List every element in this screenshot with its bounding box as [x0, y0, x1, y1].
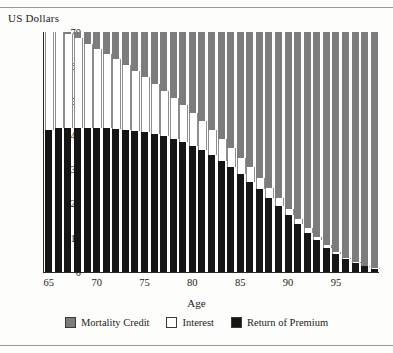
- bar-segment-rop-age-70: [93, 128, 100, 272]
- bar-segment-rop-age-75: [141, 132, 148, 272]
- bar-series-container: [44, 32, 379, 272]
- bar-segment-mor-age-91: [294, 32, 301, 219]
- bar-segment-mor-age-93: [313, 32, 320, 237]
- bar-segment-mor-age-95: [332, 32, 339, 252]
- bar-segment-int-age-70: [93, 49, 102, 128]
- x-tick-65: 65: [44, 277, 55, 288]
- bar-segment-rop-age-78: [170, 139, 177, 272]
- bar-segment-rop-age-89: [275, 206, 282, 272]
- bar-segment-int-age-74: [131, 71, 140, 131]
- legend-item-return_of_premium[interactable]: Return of Premium: [231, 317, 328, 328]
- bar-age-76: [151, 32, 158, 272]
- legend-item-interest[interactable]: Interest: [166, 317, 214, 328]
- x-axis-title: Age: [0, 297, 393, 309]
- bar-age-73: [122, 32, 129, 272]
- bar-segment-rop-age-74: [131, 131, 138, 272]
- x-tick-70: 70: [91, 277, 102, 288]
- bar-segment-mor-age-76: [151, 32, 158, 84]
- bar-segment-rop-age-99: [371, 269, 378, 272]
- legend-swatch-interest: [166, 317, 177, 328]
- bar-age-88: [265, 32, 272, 272]
- bar-segment-rop-age-76: [151, 134, 158, 272]
- bar-segment-mor-age-78: [170, 32, 177, 98]
- bar-segment-int-age-72: [112, 59, 121, 128]
- bar-segment-rop-age-95: [332, 254, 339, 272]
- bar-segment-int-age-77: [160, 91, 169, 137]
- bar-age-78: [170, 32, 177, 272]
- bar-segment-int-age-87: [256, 178, 265, 190]
- bar-age-65: [45, 32, 52, 272]
- x-axis-tick-labels: 65707580859095: [44, 273, 379, 293]
- bar-age-70: [93, 32, 100, 272]
- bar-segment-mor-age-70: [93, 32, 100, 49]
- bar-age-95: [332, 32, 339, 272]
- y-axis-title: US Dollars: [8, 12, 59, 24]
- bar-segment-mor-age-86: [246, 32, 253, 167]
- bar-age-75: [141, 32, 148, 272]
- bar-segment-mor-age-71: [103, 32, 110, 54]
- x-tick-90: 90: [283, 277, 294, 288]
- bar-age-81: [198, 32, 205, 272]
- bar-age-83: [218, 32, 225, 272]
- bar-segment-rop-age-97: [352, 263, 359, 272]
- bar-segment-rop-age-68: [74, 128, 81, 272]
- bar-segment-mor-age-75: [141, 32, 148, 77]
- x-tick-80: 80: [187, 277, 198, 288]
- legend-label-interest: Interest: [182, 317, 214, 328]
- bar-segment-mor-age-77: [160, 32, 167, 91]
- bar-age-67: [64, 32, 71, 272]
- bar-segment-mor-age-87: [256, 32, 263, 178]
- bar-segment-mor-age-97: [352, 32, 359, 262]
- bar-age-71: [103, 32, 110, 272]
- bar-segment-int-age-85: [237, 158, 246, 174]
- x-tick-85: 85: [235, 277, 246, 288]
- bar-segment-rop-age-98: [361, 266, 368, 272]
- bar-segment-mor-age-80: [189, 32, 196, 113]
- bar-age-66: [55, 32, 62, 272]
- bar-segment-mor-age-96: [342, 32, 349, 258]
- bar-segment-mor-age-90: [285, 32, 292, 209]
- bar-age-91: [294, 32, 301, 272]
- bar-segment-mor-age-99: [371, 32, 378, 268]
- bar-segment-rop-age-79: [179, 142, 186, 272]
- bar-segment-rop-age-88: [265, 198, 272, 272]
- bar-age-87: [256, 32, 263, 272]
- bar-age-74: [131, 32, 138, 272]
- bar-segment-int-age-67: [64, 34, 73, 128]
- bar-segment-rop-age-83: [218, 161, 225, 272]
- bar-segment-mor-age-79: [179, 32, 186, 105]
- legend-item-mortality_credit[interactable]: Mortality Credit: [65, 317, 150, 328]
- bar-age-99: [371, 32, 378, 272]
- bar-segment-rop-age-67: [64, 128, 71, 272]
- bar-segment-int-age-88: [265, 188, 274, 198]
- bar-segment-rop-age-80: [189, 146, 196, 272]
- bar-segment-rop-age-73: [122, 130, 129, 272]
- bar-segment-int-age-80: [189, 113, 198, 146]
- bar-segment-rop-age-72: [112, 129, 119, 272]
- bar-segment-rop-age-71: [103, 128, 110, 272]
- bar-age-89: [275, 32, 282, 272]
- bar-segment-mor-age-82: [208, 32, 215, 130]
- bar-age-68: [74, 32, 81, 272]
- bar-segment-mor-age-73: [122, 32, 129, 65]
- bar-segment-mor-age-88: [265, 32, 272, 188]
- bar-segment-rop-age-77: [160, 136, 167, 272]
- bar-segment-rop-age-94: [323, 248, 330, 272]
- bar-segment-rop-age-96: [342, 259, 349, 272]
- bar-age-92: [304, 32, 311, 272]
- bar-age-80: [189, 32, 196, 272]
- legend-label-return_of_premium: Return of Premium: [247, 317, 328, 328]
- bar-segment-rop-age-87: [256, 189, 263, 272]
- bar-segment-int-age-75: [141, 77, 150, 132]
- bar-segment-mor-age-72: [112, 32, 119, 59]
- bar-segment-mor-age-94: [323, 32, 330, 245]
- bar-age-69: [84, 32, 91, 272]
- bar-age-97: [352, 32, 359, 272]
- bar-segment-rop-age-92: [304, 233, 311, 272]
- bar-age-72: [112, 32, 119, 272]
- bar-segment-mor-age-85: [237, 32, 244, 157]
- bar-segment-rop-age-81: [198, 150, 205, 272]
- bar-segment-int-age-73: [122, 65, 131, 129]
- bar-segment-int-age-79: [179, 105, 188, 142]
- bar-segment-int-age-84: [227, 148, 236, 167]
